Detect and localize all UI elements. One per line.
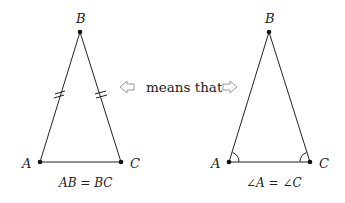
connector: means that — [120, 79, 237, 95]
vertex-a-point — [38, 160, 43, 165]
angle-arc-c — [300, 153, 307, 163]
angle-arc-a — [233, 153, 240, 163]
label-a: A — [21, 156, 31, 171]
isosceles-triangle-diagram: B A C AB = BC means that B A C ∠A = ∠C — [0, 0, 345, 203]
label-c: C — [130, 156, 140, 171]
vertex-a-point — [227, 160, 232, 165]
label-c: C — [319, 156, 329, 171]
caption-angle-a-equals-angle-c: ∠A = ∠C — [246, 176, 302, 190]
means-that-text: means that — [146, 79, 223, 95]
hollow-arrow-left-icon — [120, 81, 134, 93]
label-b: B — [75, 11, 86, 26]
label-a: A — [210, 156, 220, 171]
vertex-c-point — [308, 160, 313, 165]
vertex-b-point — [267, 30, 272, 35]
right-triangle: B A C ∠A = ∠C — [210, 11, 329, 190]
vertex-b-point — [78, 30, 83, 35]
hollow-arrow-right-icon — [223, 81, 237, 93]
tick-marks-bc — [95, 91, 107, 98]
caption-ab-equals-bc: AB = BC — [58, 176, 112, 190]
vertex-c-point — [119, 160, 124, 165]
label-b: B — [264, 11, 275, 26]
left-triangle: B A C AB = BC — [21, 11, 140, 190]
